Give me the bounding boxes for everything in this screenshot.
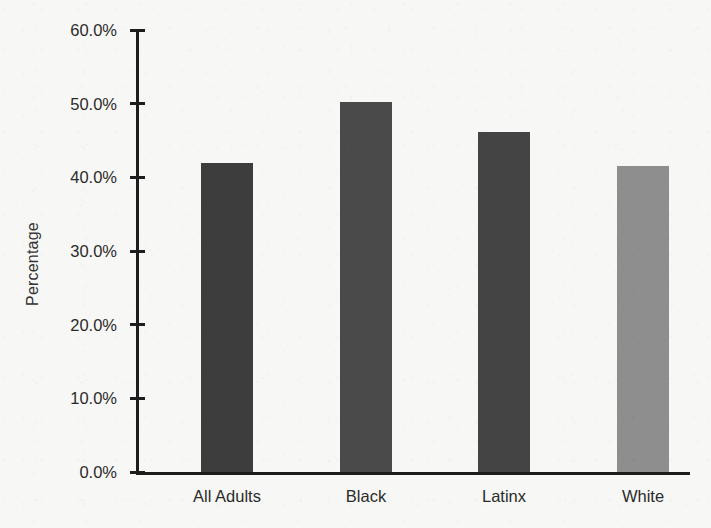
y-tick-label-6: 0.0% [79, 463, 117, 482]
bar-black[interactable]: Black [340, 102, 392, 472]
y-tick-3: 30.0% [130, 250, 145, 253]
x-tick-label-1: Black [346, 487, 386, 506]
y-axis-title-label: Percentage [24, 222, 42, 306]
y-tick-label-2: 40.0% [70, 168, 117, 187]
bar-latinx[interactable]: Latinx [478, 132, 530, 472]
x-axis-line [136, 472, 690, 475]
y-tick-4: 20.0% [130, 323, 145, 326]
bar-white[interactable]: White [617, 166, 669, 472]
bar-fill [617, 166, 669, 472]
y-tick-label-5: 10.0% [70, 389, 117, 408]
y-tick-5: 10.0% [130, 397, 145, 400]
x-tick-label-2: Latinx [482, 487, 526, 506]
y-tick-6: 0.0% [130, 471, 145, 474]
y-tick-label-3: 30.0% [70, 242, 117, 261]
y-tick-0: 60.0% [130, 29, 145, 32]
x-tick-label-3: White [622, 487, 664, 506]
y-tick-1: 50.0% [130, 102, 145, 105]
x-tick-label-0: All Adults [193, 487, 261, 506]
bar-fill [478, 132, 530, 472]
y-tick-label-4: 20.0% [70, 315, 117, 334]
bar-chart-figure: Percentage 60.0%50.0%40.0%30.0%20.0%10.0… [0, 0, 711, 528]
y-tick-label-0: 60.0% [70, 21, 117, 40]
y-axis-title: Percentage [16, 0, 50, 528]
y-tick-2: 40.0% [130, 176, 145, 179]
bar-fill [340, 102, 392, 472]
bar-fill [201, 163, 253, 472]
bar-all-adults[interactable]: All Adults [201, 163, 253, 472]
y-tick-label-1: 50.0% [70, 94, 117, 113]
plot-area: 60.0%50.0%40.0%30.0%20.0%10.0%0.0% All A… [136, 30, 690, 472]
